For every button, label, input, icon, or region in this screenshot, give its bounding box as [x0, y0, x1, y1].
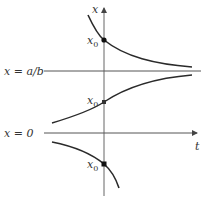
initial-point-lower [102, 162, 107, 167]
x0-label-middle: x0 [87, 94, 98, 109]
phase-diagram: x x = a/b x = 0 t x0 x0 x0 [0, 0, 207, 203]
solution-curve-middle [52, 75, 192, 123]
initial-point-middle [102, 100, 106, 104]
x0-label-upper: x0 [87, 34, 98, 49]
equilibrium-label-zero: x = 0 [4, 127, 33, 140]
x0-label-lower: x0 [87, 158, 98, 173]
solution-curve-lower [52, 142, 119, 188]
initial-point-upper [101, 37, 106, 42]
t-axis-label: t [195, 140, 200, 153]
equilibrium-label-a-over-b: x = a/b [4, 65, 44, 78]
x-axis-label: x [92, 3, 99, 16]
